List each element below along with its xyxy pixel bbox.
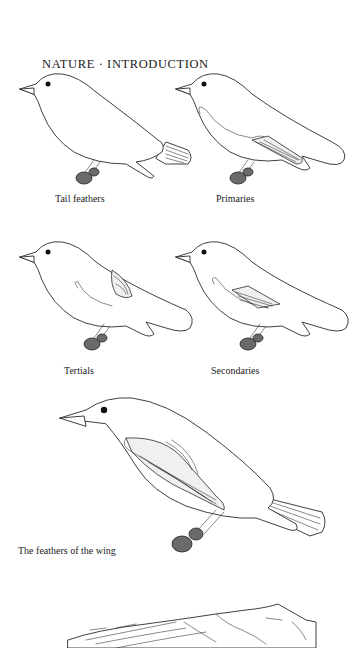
caption-secondaries: Secondaries [211, 365, 259, 376]
figure-primaries [172, 72, 352, 192]
eye-icon [202, 82, 207, 87]
figure-tertials [16, 240, 196, 360]
caption-primaries: Primaries [216, 193, 254, 204]
eye-icon [46, 82, 51, 87]
eye-icon [101, 407, 107, 413]
spread-wing-illustration [66, 600, 316, 648]
figure-wing-feathers [56, 392, 326, 562]
bird-illustration-tail [16, 72, 196, 192]
bird-illustration-primaries [172, 72, 352, 192]
eye-icon [202, 250, 207, 255]
figure-spread-wing [66, 600, 316, 648]
eye-icon [46, 250, 51, 255]
bird-illustration-tertials [16, 240, 196, 360]
figure-tail-feathers [16, 72, 196, 192]
figure-secondaries [172, 240, 352, 360]
caption-wing-feathers: The feathers of the wing [18, 545, 116, 556]
caption-tertials: Tertials [64, 365, 94, 376]
page-header: NATURE · INTRODUCTION [42, 57, 209, 72]
bird-illustration-secondaries [172, 240, 352, 360]
caption-tail-feathers: Tail feathers [55, 193, 105, 204]
bird-illustration-wing [56, 392, 326, 562]
